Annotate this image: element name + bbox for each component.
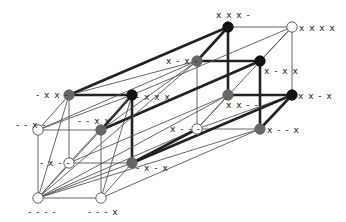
edge-0000-0101	[38, 163, 132, 198]
label-layer: - - - -- - - x- x - -- x - x- - x -- - x…	[16, 10, 336, 217]
node-label-0110: - x x -	[36, 90, 69, 100]
node-label-1011: x - x x	[264, 66, 299, 76]
node-1101	[287, 90, 297, 100]
node-label-0011: - - x x	[78, 116, 111, 126]
edge-1001-1101	[260, 95, 292, 129]
node-0011	[96, 125, 106, 135]
edge-1000-1111	[197, 27, 292, 129]
node-label-1101: x x - x	[298, 91, 333, 101]
node-label-0101: - x - x	[136, 163, 169, 173]
edge-0000-0110	[38, 95, 69, 198]
node-label-0000: - - - -	[28, 207, 57, 217]
node-label-0001: - - - x	[88, 207, 119, 217]
node-label-1000: x - - -	[170, 124, 201, 134]
node-label-1110: x x x -	[216, 10, 251, 20]
node-1110	[223, 22, 233, 32]
node-label-0100: - x - -	[40, 158, 71, 168]
node-label-0010: - - x -	[16, 120, 47, 130]
node-label-1001: x - - x	[267, 125, 300, 135]
node-1111	[287, 22, 297, 32]
edge-0111-1111	[132, 27, 292, 95]
node-label-0111: - x x x	[136, 92, 171, 102]
node-label-1100: x x - -	[226, 100, 259, 110]
node-1001	[255, 124, 265, 134]
edge-0101-1000	[132, 129, 197, 163]
node-label-1111: x x x x	[299, 23, 336, 33]
node-0000	[33, 193, 43, 203]
edge-0001-0111	[101, 95, 132, 198]
node-layer	[33, 22, 297, 203]
node-1100	[223, 90, 233, 100]
node-0001	[96, 193, 106, 203]
node-label-1010: x - x -	[166, 56, 199, 66]
node-1011	[255, 56, 265, 66]
hypercube-diagram: - - - -- - - x- x - -- x - x- - x -- - x…	[0, 0, 346, 222]
